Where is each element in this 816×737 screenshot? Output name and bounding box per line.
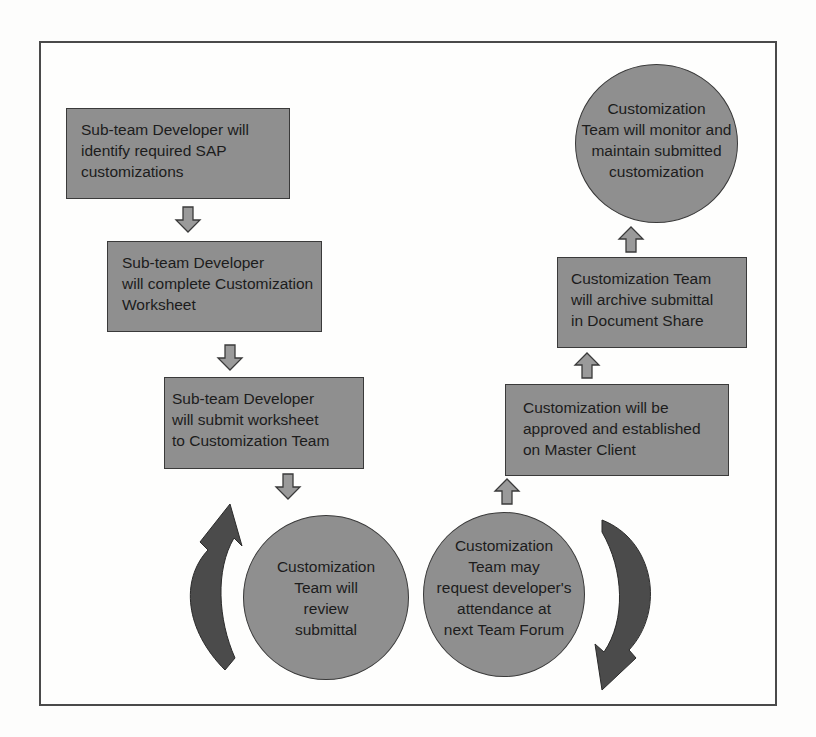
step-text-line: request developer's — [437, 577, 572, 598]
step-complete-worksheet: Sub-team Developer will complete Customi… — [107, 241, 322, 332]
arrow-up-icon — [573, 351, 601, 379]
step-text-line: in Document Share — [571, 310, 732, 331]
step-text-line: Worksheet — [122, 294, 307, 315]
step-text-line: Customization — [277, 556, 375, 577]
step-archive-submittal: Customization Team will archive submitta… — [557, 257, 747, 348]
step-text-line: next Team Forum — [437, 619, 572, 640]
step-submit-worksheet: Sub-team Developer will submit worksheet… — [164, 377, 364, 469]
step-text-line: Customization Team — [571, 268, 732, 289]
step-review-submittal: Customization Team will review submittal — [243, 515, 409, 680]
arrow-down-icon — [216, 344, 244, 372]
step-text-line: Customization — [437, 535, 572, 556]
arrow-up-icon — [617, 225, 645, 253]
step-identify-customizations: Sub-team Developer will identify require… — [66, 108, 290, 199]
step-text-line: maintain submitted — [582, 140, 732, 161]
step-text-line: on Master Client — [523, 439, 714, 460]
step-text-line: customizations — [81, 161, 275, 182]
step-text-line: will archive submittal — [571, 289, 732, 310]
step-text-line: Sub-team Developer — [172, 388, 349, 409]
step-text-line: will submit worksheet — [172, 409, 349, 430]
step-text-line: Team will — [277, 577, 375, 598]
step-text-line: customization — [582, 161, 732, 182]
step-approve-establish: Customization will be approved and estab… — [505, 384, 729, 476]
step-text-line: will complete Customization — [122, 273, 307, 294]
step-text-line: Team will monitor and — [582, 119, 732, 140]
step-text-line: attendance at — [437, 598, 572, 619]
step-text-line: identify required SAP — [81, 140, 275, 161]
step-text-line: Sub-team Developer — [122, 252, 307, 273]
step-text-line: Customization will be — [523, 397, 714, 418]
step-request-attendance: Customization Team may request developer… — [423, 512, 585, 677]
step-text-line: submittal — [277, 619, 375, 640]
step-text-line: review — [277, 598, 375, 619]
arrow-up-icon — [493, 477, 521, 505]
step-text-line: Team may — [437, 556, 572, 577]
curved-arrow-up-icon — [180, 500, 250, 670]
arrow-down-icon — [174, 206, 202, 234]
step-text-line: Sub-team Developer will — [81, 119, 275, 140]
arrow-down-icon — [274, 473, 302, 501]
step-text-line: Customization — [582, 98, 732, 119]
curved-arrow-down-icon — [594, 520, 664, 695]
step-text-line: approved and established — [523, 418, 714, 439]
step-text-line: to Customization Team — [172, 430, 349, 451]
step-monitor-maintain: Customization Team will monitor and main… — [575, 64, 738, 223]
